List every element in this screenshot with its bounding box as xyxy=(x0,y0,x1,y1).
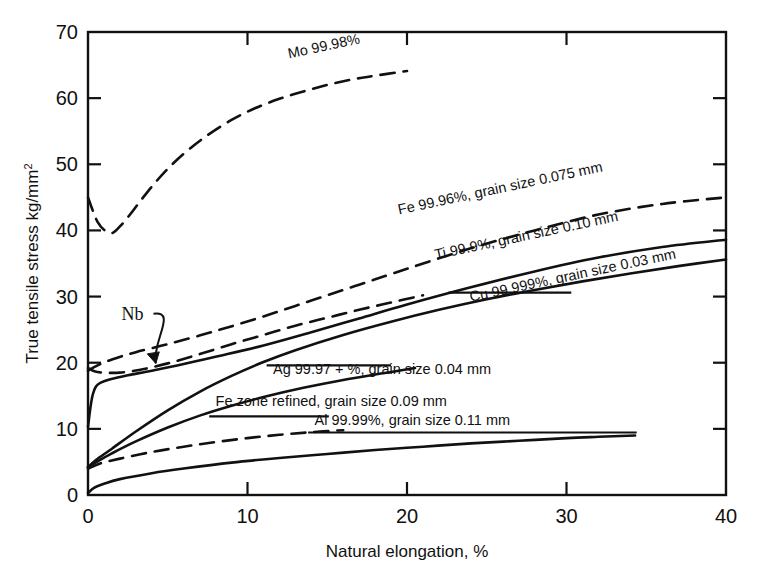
nb-series-label: Nb xyxy=(121,304,143,324)
series-label: Al 99.99%, grain size 0.11 mm xyxy=(314,412,510,428)
y-tick-label: 70 xyxy=(56,21,78,43)
x-tick-label: 30 xyxy=(555,505,577,527)
y-tick-label: 10 xyxy=(56,418,78,440)
x-tick-label: 20 xyxy=(396,505,418,527)
series-label: Fe zone refined, grain size 0.09 mm xyxy=(216,393,447,409)
x-axis-title: Natural elongation, % xyxy=(326,542,489,561)
x-tick-label: 10 xyxy=(236,505,258,527)
y-tick-label: 20 xyxy=(56,352,78,374)
x-tick-label: 40 xyxy=(715,505,737,527)
y-tick-label: 40 xyxy=(56,219,78,241)
y-tick-label: 60 xyxy=(56,87,78,109)
tensile-stress-vs-elongation-chart: 010203040506070010203040 Mo 99.98%Fe 99.… xyxy=(0,0,766,583)
series-label: Ag 99.97 + %, grain size 0.04 mm xyxy=(273,361,491,377)
y-axis-title-exponent: 2 xyxy=(22,163,34,169)
y-tick-label: 50 xyxy=(56,153,78,175)
x-tick-label: 0 xyxy=(82,505,93,527)
y-axis-title: True tensile stress kg/mm2 xyxy=(22,163,42,363)
figure-container: 010203040506070010203040 Mo 99.98%Fe 99.… xyxy=(0,0,766,583)
y-tick-label: 30 xyxy=(56,286,78,308)
y-tick-label: 0 xyxy=(67,484,78,506)
y-axis-title-text: True tensile stress kg/mm xyxy=(23,170,42,364)
